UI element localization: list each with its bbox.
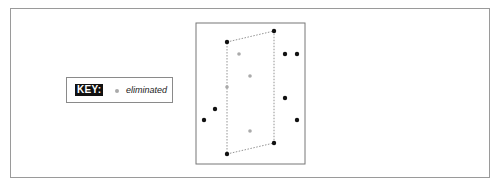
active-point: [295, 118, 299, 122]
active-point: [213, 107, 217, 111]
active-point: [225, 40, 229, 44]
eliminated-point: [225, 85, 229, 89]
active-point: [283, 96, 287, 100]
eliminated-point: [248, 129, 252, 133]
point-diagram: [0, 0, 498, 187]
eliminated-point: [237, 52, 241, 56]
diagram-box: [196, 23, 305, 164]
active-point: [225, 152, 229, 156]
eliminated-points: [225, 52, 252, 133]
hull-outline: [227, 31, 274, 154]
active-point: [283, 52, 287, 56]
active-point: [272, 141, 276, 145]
active-point: [295, 52, 299, 56]
active-point: [272, 29, 276, 33]
active-points: [202, 29, 299, 156]
active-point: [202, 118, 206, 122]
eliminated-point: [248, 74, 252, 78]
